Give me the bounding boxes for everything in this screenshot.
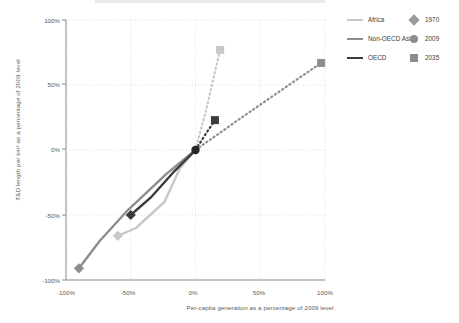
marker-2035 <box>216 46 224 54</box>
legend-label-africa: Africa <box>368 16 384 23</box>
legend-marker-2009[interactable]: 2009 <box>410 29 459 48</box>
chart-container: T&D length per km² as a percentage of 20… <box>0 0 459 323</box>
marker-2035 <box>211 116 219 124</box>
legend-line-oecd <box>347 57 363 59</box>
circle-icon <box>410 35 418 43</box>
series-africa <box>118 50 220 236</box>
legend-marker-label-2009: 2009 <box>425 35 439 42</box>
marker-2035 <box>317 59 325 67</box>
marker-2009 <box>191 146 199 154</box>
legend-marker-1970[interactable]: 1970 <box>410 10 459 29</box>
legend-line-africa <box>347 19 363 21</box>
marker-1970 <box>113 231 123 241</box>
legend-marker-label-2035: 2035 <box>425 54 439 61</box>
projection-line <box>196 120 215 150</box>
legend-label-oecd: OECD <box>368 54 386 61</box>
legend-markers: 1970 2009 2035 <box>410 10 459 67</box>
historical-line <box>131 150 196 215</box>
legend-label-non-oecd-asia: Non-OECD Asia <box>368 35 414 42</box>
legend-line-non-oecd-asia <box>347 38 363 40</box>
diamond-icon <box>408 14 419 25</box>
legend-marker-label-1970: 1970 <box>425 16 439 23</box>
legend-marker-2035[interactable]: 2035 <box>410 48 459 67</box>
series-layer <box>74 46 325 273</box>
square-icon <box>410 54 418 62</box>
